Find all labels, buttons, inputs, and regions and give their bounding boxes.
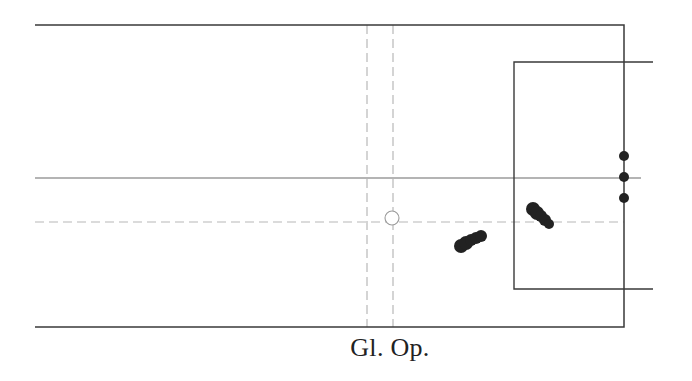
goal-marker-1 — [619, 151, 629, 161]
pitch-lines — [35, 25, 653, 327]
pitch-diagram — [0, 0, 692, 381]
goal-marker-3 — [619, 193, 629, 203]
cluster-left — [454, 230, 487, 253]
cluster-right — [526, 202, 554, 229]
cluster-point — [544, 219, 554, 229]
inner-box — [514, 62, 653, 289]
reference-circle — [385, 211, 399, 225]
cluster-point — [475, 230, 487, 242]
outer-boundary — [35, 25, 624, 327]
diagram-caption: Gl. Op. — [0, 333, 692, 363]
goal-marker-2 — [619, 172, 629, 182]
markers — [385, 151, 629, 253]
